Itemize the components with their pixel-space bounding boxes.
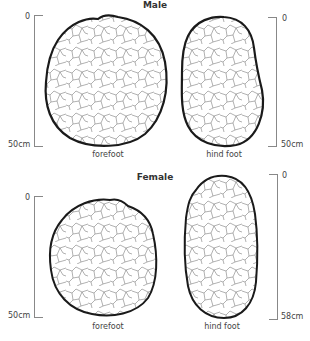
male-hindfoot-caption: hind foot bbox=[184, 150, 264, 159]
female-right-scale-top: 0 bbox=[282, 171, 287, 180]
female-left-scale-top: 0 bbox=[25, 193, 30, 202]
male-right-scale-top: 0 bbox=[282, 14, 287, 23]
male-right-scale-bracket bbox=[268, 17, 277, 147]
male-left-scale-bottom: 50cm bbox=[8, 140, 30, 149]
female-forefoot-print bbox=[50, 199, 156, 315]
female-right-scale-bottom: 58cm bbox=[281, 312, 303, 321]
female-left-scale-bracket bbox=[34, 196, 43, 318]
male-right-scale-bottom: 50cm bbox=[281, 140, 303, 149]
female-hindfoot-caption: hind foot bbox=[182, 322, 262, 331]
male-forefoot-caption: forefoot bbox=[68, 150, 148, 159]
female-title: Female bbox=[115, 172, 195, 182]
female-left-scale-bottom: 50cm bbox=[8, 311, 30, 320]
female-right-scale-bracket bbox=[269, 174, 278, 320]
male-forefoot-print bbox=[46, 15, 167, 146]
female-hindfoot-print bbox=[185, 176, 258, 318]
female-forefoot-caption: forefoot bbox=[68, 322, 148, 331]
male-hindfoot-print bbox=[182, 17, 263, 146]
male-title: Male bbox=[115, 0, 195, 10]
footprints-drawing bbox=[0, 0, 310, 341]
male-left-scale-bracket bbox=[34, 15, 43, 147]
male-left-scale-top: 0 bbox=[25, 12, 30, 21]
